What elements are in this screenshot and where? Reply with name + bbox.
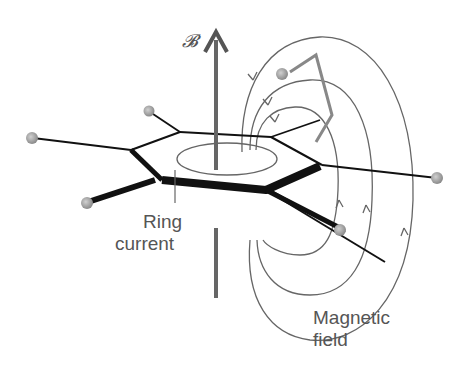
- diagram-canvas: [0, 0, 470, 374]
- ring-current-label-1: Ring: [143, 212, 182, 232]
- benzene-ring: [33, 112, 437, 262]
- field-axis-label: 𝓑: [182, 30, 198, 52]
- magnetic-field-label-1: Magnetic: [313, 308, 390, 328]
- ring-current-label-2: current: [115, 234, 174, 254]
- ring-current-loop: [177, 143, 277, 175]
- ring-current-diagram: 𝓑 Ring current Magnetic field: [0, 0, 470, 374]
- magnetic-field-label-2: field: [313, 330, 348, 350]
